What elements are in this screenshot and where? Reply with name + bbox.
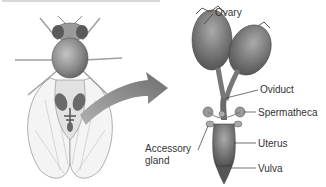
label-spermatheca: Spermatheca: [258, 107, 317, 118]
cropped-caption-fragment: [2, 0, 160, 2]
reproductive-organs: [192, 6, 279, 184]
diagram: Ovary Oviduct Spermatheca Accessory glan…: [0, 0, 326, 187]
label-accessory-gland-line1: Accessory: [145, 143, 191, 154]
label-vulva: Vulva: [258, 163, 283, 174]
label-accessory-gland-line2: gland: [145, 155, 169, 166]
label-uterus: Uterus: [258, 138, 287, 149]
label-ovary: Ovary: [215, 7, 242, 18]
label-oviduct: Oviduct: [260, 84, 294, 95]
